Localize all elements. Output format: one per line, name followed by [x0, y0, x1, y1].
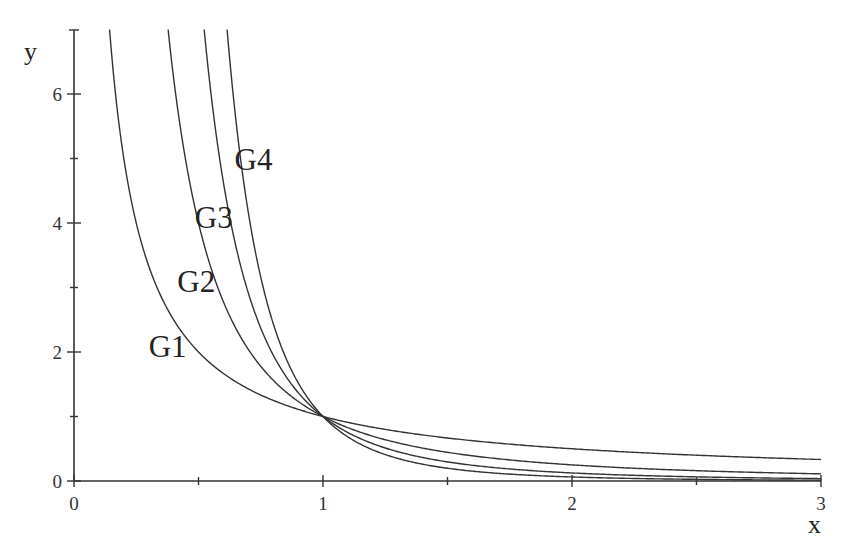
axes-group — [69, 30, 821, 481]
curve-g1 — [110, 30, 821, 460]
x-tick-label: 1 — [318, 493, 328, 514]
y-tick-label: 4 — [53, 213, 63, 234]
curves-group — [110, 30, 821, 481]
y-tick-label: 6 — [53, 84, 63, 105]
series-labels-group: G1G2G3G4 — [149, 142, 273, 364]
tick-labels-group: 01230246 — [53, 84, 826, 514]
series-label-g4: G4 — [235, 142, 273, 177]
chart: 01230246 x y G1G2G3G4 — [0, 0, 849, 559]
y-tick-label: 0 — [53, 471, 63, 492]
x-tick-label: 0 — [69, 493, 79, 514]
x-tick-label: 2 — [567, 493, 577, 514]
series-label-g3: G3 — [195, 200, 233, 235]
y-tick-label: 2 — [53, 342, 63, 363]
curve-g2 — [168, 30, 821, 474]
y-axis-label: y — [24, 37, 37, 66]
series-label-g1: G1 — [149, 329, 187, 364]
series-label-g2: G2 — [177, 264, 215, 299]
curve-g3 — [204, 30, 821, 479]
x-axis-label: x — [808, 510, 821, 539]
